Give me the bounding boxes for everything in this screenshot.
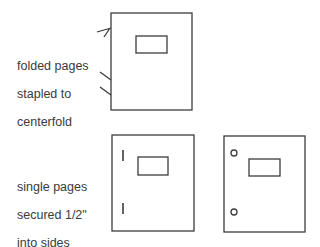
booklet-outline xyxy=(112,135,194,231)
booklet-outline xyxy=(111,13,192,110)
title-label-box xyxy=(138,157,168,175)
hole-top-icon xyxy=(231,150,237,156)
binding-diagram xyxy=(0,0,320,247)
staple-middle-icon xyxy=(100,72,111,80)
hole-punched-booklet xyxy=(224,136,305,232)
title-label-box xyxy=(136,36,167,53)
title-label-box xyxy=(249,159,280,176)
staple-bottom-icon xyxy=(100,87,111,95)
staple-top-icon xyxy=(97,28,111,37)
side-stapled-booklet xyxy=(112,135,194,231)
folded-booklet xyxy=(97,13,192,110)
hole-bottom-icon xyxy=(231,209,237,215)
